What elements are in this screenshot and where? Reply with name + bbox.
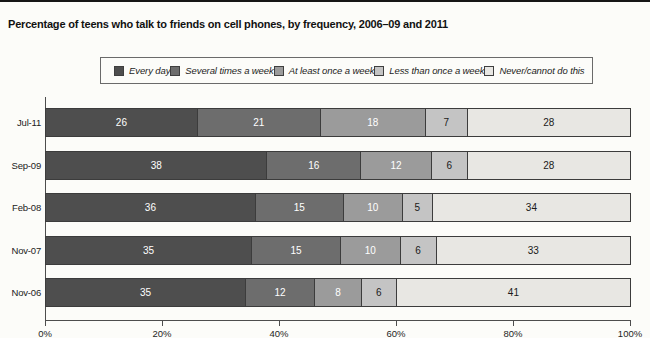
bar-value-label: 38	[151, 160, 162, 171]
bar-value-label: 36	[145, 202, 156, 213]
x-axis-tick	[45, 320, 46, 326]
x-axis-tick	[279, 320, 280, 326]
bar-segment: 38	[45, 151, 267, 180]
bar-value-label: 15	[294, 202, 305, 213]
legend-swatch-icon	[274, 66, 284, 76]
legend-label: Never/cannot do this	[499, 65, 584, 76]
top-rule	[0, 0, 650, 2]
x-axis-line	[45, 320, 631, 321]
bar-value-label: 28	[543, 117, 554, 128]
bar-value-label: 33	[528, 245, 539, 256]
bar-value-label: 26	[116, 117, 127, 128]
bar-value-label: 21	[253, 117, 264, 128]
legend-item: Several times a week	[170, 65, 273, 76]
legend-swatch-icon	[484, 66, 494, 76]
bar-segment: 7	[425, 108, 468, 137]
bar-row: Jul-11262118728	[46, 108, 631, 137]
legend-item: At least once a week	[274, 65, 375, 76]
bar-segment: 6	[400, 236, 437, 265]
bar-segment: 35	[45, 236, 252, 265]
bar-segment: 5	[402, 193, 433, 222]
x-axis-tick-label: 60%	[374, 328, 418, 338]
bar-row: Nov-0635128641	[46, 278, 631, 307]
bar-segment: 10	[343, 193, 403, 222]
bar-segment: 41	[396, 278, 631, 307]
row-label: Nov-06	[0, 278, 41, 307]
bar-value-label: 6	[376, 287, 382, 298]
bar-value-label: 18	[367, 117, 378, 128]
legend-label: Less than once a week	[389, 65, 484, 76]
bar-value-label: 34	[526, 202, 537, 213]
bar-segment: 8	[314, 278, 361, 307]
bar-value-label: 10	[365, 245, 376, 256]
bar-segment: 16	[266, 151, 361, 180]
legend-swatch-icon	[114, 66, 124, 76]
row-label: Sep-09	[0, 151, 41, 180]
bar-segment: 34	[432, 193, 631, 222]
bar-segment: 10	[340, 236, 401, 265]
bar-row: Sep-09381612628	[46, 151, 631, 180]
bar-value-label: 41	[508, 287, 519, 298]
x-axis-tick	[396, 320, 397, 326]
bar-segment: 28	[467, 108, 631, 137]
plot-area: Jul-11262118728Sep-09381612628Feb-083615…	[45, 97, 630, 338]
bar-segment: 12	[245, 278, 315, 307]
bar-row: Feb-08361510534	[46, 193, 631, 222]
bar-value-label: 10	[367, 202, 378, 213]
bar-segment: 26	[45, 108, 198, 137]
legend-swatch-icon	[374, 66, 384, 76]
bar-value-label: 12	[390, 160, 401, 171]
x-axis-tick-label: 100%	[608, 328, 650, 338]
bar-segment: 36	[45, 193, 256, 222]
bar-value-label: 6	[415, 245, 421, 256]
bar-value-label: 8	[335, 287, 341, 298]
bar-value-label: 12	[275, 287, 286, 298]
bar-segment: 12	[360, 151, 432, 180]
x-axis-tick-label: 0%	[23, 328, 67, 338]
bar-segment: 6	[361, 278, 397, 307]
bar-value-label: 35	[143, 245, 154, 256]
legend-swatch-icon	[170, 66, 180, 76]
legend-label: Several times a week	[185, 65, 273, 76]
bar-segment: 6	[431, 151, 468, 180]
legend-label: Every day	[129, 65, 170, 76]
row-label: Feb-08	[0, 193, 41, 222]
bar-value-label: 6	[446, 160, 452, 171]
bar-segment: 33	[436, 236, 631, 265]
x-axis-tick	[162, 320, 163, 326]
bar-value-label: 16	[308, 160, 319, 171]
x-axis-tick	[513, 320, 514, 326]
x-axis-tick	[630, 320, 631, 326]
legend-item: Less than once a week	[374, 65, 484, 76]
bar-value-label: 5	[415, 202, 421, 213]
bar-segment: 21	[197, 108, 321, 137]
bar-row: Nov-07351510633	[46, 236, 631, 265]
bar-value-label: 15	[290, 245, 301, 256]
chart-title: Percentage of teens who talk to friends …	[8, 18, 448, 30]
row-label: Nov-07	[0, 236, 41, 265]
bar-value-label: 35	[140, 287, 151, 298]
bar-segment: 15	[251, 236, 341, 265]
bar-segment: 18	[320, 108, 426, 137]
bar-segment: 15	[255, 193, 344, 222]
x-axis-tick-label: 20%	[140, 328, 184, 338]
bar-value-label: 7	[444, 117, 450, 128]
legend-label: At least once a week	[289, 65, 375, 76]
row-label: Jul-11	[0, 108, 41, 137]
bar-segment: 35	[45, 278, 246, 307]
x-axis-tick-label: 80%	[491, 328, 535, 338]
legend-box: Every daySeveral times a weekAt least on…	[100, 57, 593, 84]
legend-item: Every day	[114, 65, 170, 76]
x-axis-tick-label: 40%	[257, 328, 301, 338]
legend-item: Never/cannot do this	[484, 65, 584, 76]
bar-value-label: 28	[543, 160, 554, 171]
bar-segment: 28	[467, 151, 631, 180]
